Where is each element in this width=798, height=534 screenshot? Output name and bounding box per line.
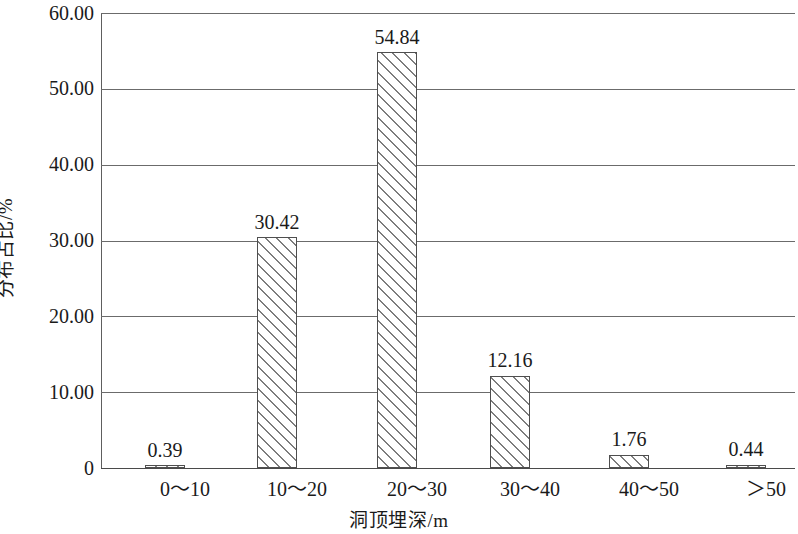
y-tick-label: 0: [8, 458, 94, 478]
gridline-50: [101, 89, 795, 90]
bar-20-30[interactable]: [377, 52, 417, 468]
bar-value-label: 54.84: [347, 26, 447, 48]
y-tick-label: 10.00: [8, 382, 94, 402]
y-axis-tick-labels: 60.00 50.00 40.00 30.00 20.00 10.00 0: [0, 0, 94, 490]
gridline-40: [101, 165, 795, 166]
x-axis-line: [101, 468, 795, 469]
gridline-20: [101, 316, 795, 317]
plot-area: 0.39 30.42 54.84 12.16 1.76 0.44: [101, 13, 795, 468]
y-tick-label: 30.00: [8, 230, 94, 250]
bar-value-label: 1.76: [579, 428, 679, 450]
gridline-10: [101, 392, 795, 393]
gridline-30: [101, 241, 795, 242]
y-tick-label: 40.00: [8, 154, 94, 174]
gridline-60: [101, 13, 795, 14]
bar-value-label: 12.16: [460, 349, 560, 371]
bar-30-40[interactable]: [490, 376, 530, 468]
x-axis-title: 洞顶埋深/m: [0, 505, 798, 532]
y-tick-label: 50.00: [8, 78, 94, 98]
bar-value-label: 0.44: [696, 438, 796, 460]
bar-0-10[interactable]: [145, 465, 185, 468]
y-tick-label: 60.00: [8, 3, 94, 23]
bar-value-label: 30.42: [227, 211, 327, 233]
bar-value-label: 0.39: [115, 439, 215, 461]
bar-40-50[interactable]: [609, 455, 649, 468]
y-tick-label: 20.00: [8, 306, 94, 326]
bar-chart: 分布占比/% 60.00 50.00 40.00 30.00 20.00 10.…: [0, 0, 798, 534]
bar-gt-50[interactable]: [726, 465, 766, 468]
bar-10-20[interactable]: [257, 237, 297, 468]
x-tick-label-gt-50: ＞50: [676, 477, 798, 501]
